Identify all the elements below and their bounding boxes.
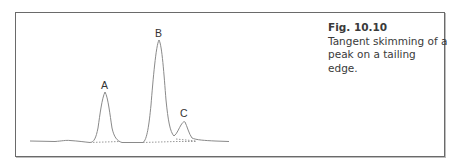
- chromatogram-trace: [30, 40, 229, 143]
- baseline-a: [90, 142, 120, 143]
- caption-line-1: Tangent skimming of a: [328, 35, 448, 49]
- figure-number: Fig. 10.10: [328, 21, 448, 35]
- tangent-skim-c: [176, 139, 196, 141]
- baseline-b: [143, 142, 176, 143]
- caption-line-2: peak on a tailing edge.: [328, 48, 448, 75]
- figure-caption: Fig. 10.10 Tangent skimming of a peak on…: [328, 21, 448, 75]
- peak-label-b: B: [155, 27, 162, 39]
- peak-label-c: C: [180, 107, 188, 119]
- peak-label-a: A: [101, 79, 108, 91]
